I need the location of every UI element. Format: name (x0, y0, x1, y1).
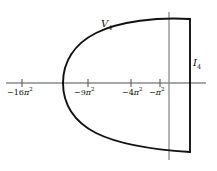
tick-coefficient: 16 (14, 88, 24, 97)
tick-exponent: 2 (161, 86, 165, 92)
figure-container: V4 I4 −16π2 −9π2 −4π2 −π2 (0, 0, 217, 171)
tick-label-minus-9-pi-squared: −9π2 (74, 86, 95, 97)
tick-label-minus-pi-squared: −π2 (149, 86, 164, 97)
tick-exponent: 2 (139, 86, 143, 92)
region-label-v4-subscript: 4 (108, 24, 112, 32)
tick-exponent: 2 (91, 86, 95, 92)
tick-label-minus-16-pi-squared: −16π2 (7, 86, 33, 97)
region-label-v4: V4 (101, 18, 112, 32)
tick-label-minus-4-pi-squared: −4π2 (122, 86, 143, 97)
axis-label-i4-subscript: 4 (197, 63, 201, 71)
tick-minus-sign: − (74, 88, 81, 97)
tick-minus-sign: − (149, 88, 156, 97)
tick-minus-sign: − (7, 88, 14, 97)
axis-label-i4: I4 (193, 57, 201, 71)
tick-exponent: 2 (29, 86, 33, 92)
tick-minus-sign: − (122, 88, 129, 97)
region-boundary-upper-curve (63, 19, 190, 83)
